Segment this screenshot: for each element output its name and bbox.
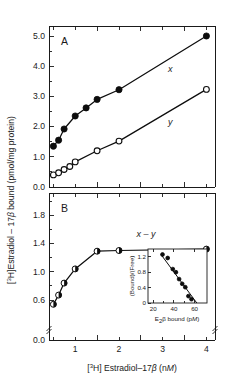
xticklabel-3: 3: [160, 344, 165, 354]
panel-b-y-ticks: [49, 202, 54, 341]
panel-b-label: B: [61, 202, 68, 214]
figure-container: 0.0 1.0 2.0 3.0 4.0 5.0: [0, 0, 230, 382]
panel-b-yticklabel-0: 0.0: [33, 335, 45, 345]
inset-y-axis-title: (Bound)/(Free): [128, 256, 135, 297]
panel-a-yticklabel-1: 1.0: [33, 152, 45, 162]
y-axis-title: [3H]Estradiol – 17β bound (pmol/mg prote…: [6, 116, 16, 284]
panel-b-yticklabel-1: 0.6: [33, 295, 45, 305]
panel-a-y-ticklabels: 0.0 1.0 2.0 3.0 4.0 5.0: [33, 31, 45, 192]
panel-b-series-xy-label: x – y: [135, 229, 156, 239]
inset-xticklabel-60: 60: [191, 305, 198, 312]
inset-yticklabel-1: 0.4: [137, 284, 146, 291]
inset-xticklabel-20: 20: [150, 305, 157, 312]
panel-a-points-x: [50, 33, 209, 149]
inset-x-ticklabels: 20 40 60: [150, 305, 199, 312]
inset-scatchard-plot: 0 0.4 0.8 1.2 20: [128, 249, 207, 324]
x-ticklabels: 1 2 3 4: [73, 344, 209, 354]
panel-a-series-x-label: x: [167, 64, 173, 74]
panel-a-yticklabel-0: 0.0: [33, 182, 45, 192]
inset-yticklabel-0: 0: [143, 299, 147, 306]
panel-a-series-y-label: y: [167, 117, 173, 127]
inset-yticklabel-3: 1.2: [137, 253, 146, 260]
x-axis-title: [3H] Estradiol–17β (nM): [87, 363, 177, 373]
inset-frame: [148, 249, 207, 303]
xticklabel-2: 2: [117, 344, 122, 354]
panel-b: 0.0 0.6 1.0 1.4 1.8: [33, 193, 217, 354]
panel-a-yticklabel-2: 2.0: [33, 121, 45, 131]
panel-a-yticklabel-4: 4.0: [33, 61, 45, 71]
panel-a-points-y: [51, 87, 210, 178]
panel-a-y-ticks: [49, 36, 54, 187]
inset-xticklabel-40: 40: [170, 305, 177, 312]
axis-break-marks: [47, 326, 218, 334]
inset-yticklabel-2: 0.8: [137, 268, 146, 275]
inset-x-axis-title: E2β bound (pM): [155, 315, 199, 324]
panel-a-yticklabel-3: 3.0: [33, 91, 45, 101]
inset-y-ticklabels: 0 0.4 0.8 1.2: [137, 253, 146, 306]
panel-a-label: A: [61, 35, 68, 47]
panel-a-curve-x: [53, 36, 206, 146]
xticklabel-1: 1: [73, 344, 78, 354]
panel-b-yticklabel-4: 1.8: [33, 210, 45, 220]
panel-a-yticklabel-5: 5.0: [33, 31, 45, 41]
panel-b-yticklabel-2: 1.0: [33, 267, 45, 277]
scientific-figure: 0.0 1.0 2.0 3.0 4.0 5.0: [0, 0, 230, 382]
xticklabel-4: 4: [204, 344, 209, 354]
panel-b-y-ticklabels: 0.0 0.6 1.0 1.4 1.8: [33, 210, 45, 345]
panel-a: 0.0 1.0 2.0 3.0 4.0 5.0: [33, 26, 215, 192]
panel-b-yticklabel-3: 1.4: [33, 238, 45, 248]
